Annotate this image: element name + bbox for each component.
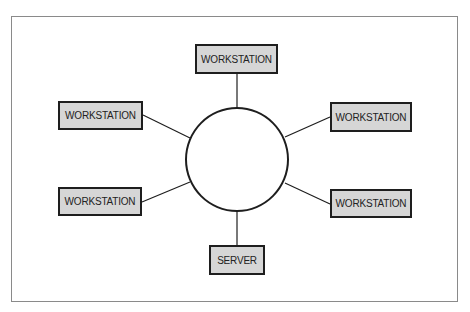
node-label: WORKSTATION xyxy=(336,112,407,123)
workstation-lower-left: WORKSTATION xyxy=(58,187,142,216)
link-upper-left xyxy=(143,115,190,138)
node-label: WORKSTATION xyxy=(201,54,272,65)
workstation-top: WORKSTATION xyxy=(195,44,278,74)
link-lower-left xyxy=(142,182,190,202)
server-bottom: SERVER xyxy=(209,245,265,275)
node-label: WORKSTATION xyxy=(65,196,136,207)
node-label: WORKSTATION xyxy=(65,110,136,121)
link-lower-right xyxy=(285,183,330,204)
workstation-lower-right: WORKSTATION xyxy=(330,189,412,218)
workstation-upper-right: WORKSTATION xyxy=(330,102,412,132)
workstation-upper-left: WORKSTATION xyxy=(58,101,143,130)
node-label: WORKSTATION xyxy=(336,198,407,209)
link-upper-right xyxy=(285,117,330,137)
node-label: SERVER xyxy=(217,255,257,266)
network-ring-hub xyxy=(185,107,289,212)
